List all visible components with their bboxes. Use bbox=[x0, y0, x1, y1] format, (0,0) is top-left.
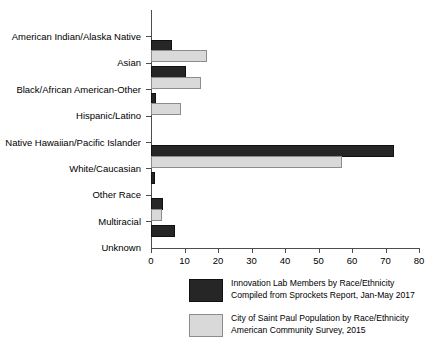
category-label-hispanic-latino: Hispanic/Latino bbox=[0, 110, 141, 121]
bar-population bbox=[151, 77, 201, 89]
legend-label-line1: Innovation Lab Members by Race/Ethnicity bbox=[231, 278, 438, 290]
bar-chart: American Indian/Alaska Native Asian Blac… bbox=[0, 0, 438, 346]
x-axis-tick bbox=[319, 248, 320, 253]
legend-label-line2: Compiled from Sprockets Report, Jan-May … bbox=[231, 290, 438, 302]
y-axis-tick bbox=[146, 195, 151, 196]
category-label-white-caucasian: White/Caucasian bbox=[0, 163, 141, 174]
x-axis-tick-label-70: 70 bbox=[371, 255, 401, 266]
bar-members bbox=[151, 172, 155, 184]
category-axis-labels: American Indian/Alaska Native Asian Blac… bbox=[0, 10, 146, 248]
bar-members bbox=[151, 225, 175, 237]
x-axis-tick bbox=[352, 248, 353, 253]
x-axis-tick bbox=[252, 248, 253, 253]
legend-swatch-dark bbox=[189, 279, 223, 302]
x-axis-tick-label-20: 20 bbox=[203, 255, 233, 266]
y-axis-tick bbox=[146, 89, 151, 90]
x-axis-tick bbox=[218, 248, 219, 253]
x-axis-tick-label-80: 80 bbox=[404, 255, 434, 266]
y-axis-tick bbox=[146, 116, 151, 117]
category-label-american-indian-alaska-native: American Indian/Alaska Native bbox=[0, 31, 141, 42]
bar-population bbox=[151, 156, 342, 168]
chart-legend: Innovation Lab Members by Race/Ethnicity… bbox=[189, 278, 438, 344]
y-axis-tick bbox=[146, 63, 151, 64]
x-axis-tick-label-60: 60 bbox=[337, 255, 367, 266]
category-label-native-hawaiian-pacific-islander: Native Hawaiian/Pacific Islander bbox=[0, 137, 141, 148]
x-axis-tick bbox=[285, 248, 286, 253]
x-axis-tick-label-30: 30 bbox=[237, 255, 267, 266]
x-axis-tick-label-0: 0 bbox=[136, 255, 166, 266]
x-axis-tick-label-10: 10 bbox=[170, 255, 200, 266]
bar-population bbox=[151, 50, 207, 62]
legend-label-innovation-lab-members: Innovation Lab Members by Race/Ethnicity… bbox=[231, 278, 438, 301]
x-axis-tick bbox=[386, 248, 387, 253]
category-label-multiracial: Multiracial bbox=[0, 216, 141, 227]
y-axis-tick bbox=[146, 36, 151, 37]
legend-entry-innovation-lab-members: Innovation Lab Members by Race/Ethnicity… bbox=[189, 278, 438, 308]
x-axis-tick bbox=[419, 248, 420, 253]
category-label-black-african-american-other: Black/African American-Other bbox=[0, 84, 141, 95]
category-label-asian: Asian bbox=[0, 57, 141, 68]
y-axis-tick bbox=[146, 142, 151, 143]
legend-swatch-light bbox=[189, 314, 223, 337]
legend-label-line1: City of Saint Paul Population by Race/Et… bbox=[231, 313, 438, 325]
y-axis-tick bbox=[146, 221, 151, 222]
legend-entry-saint-paul-population: City of Saint Paul Population by Race/Et… bbox=[189, 313, 438, 343]
bar-population bbox=[151, 103, 181, 115]
legend-label-line2: American Community Survey, 2015 bbox=[231, 325, 438, 337]
category-label-unknown: Unknown bbox=[0, 242, 141, 253]
legend-label-saint-paul-population: City of Saint Paul Population by Race/Et… bbox=[231, 313, 438, 336]
x-axis-tick-label-40: 40 bbox=[270, 255, 300, 266]
bar-population bbox=[151, 209, 162, 221]
y-axis-tick bbox=[146, 168, 151, 169]
x-axis-tick bbox=[185, 248, 186, 253]
category-label-other-race: Other Race bbox=[0, 189, 141, 200]
x-axis-tick-label-50: 50 bbox=[304, 255, 334, 266]
x-axis-tick bbox=[151, 248, 152, 253]
plot-area: American Indian/Alaska Native Asian Blac… bbox=[0, 0, 438, 270]
